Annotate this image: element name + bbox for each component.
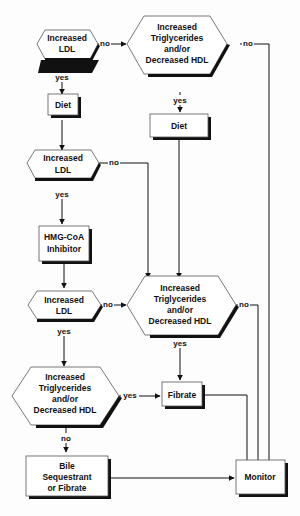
node-d5-line-4: Decreased HDL [149,316,212,326]
label-d6-yes: yes [123,391,137,400]
node-p3-hmg-coa-inhibitor: HMG-CoA Inhibitor [39,226,92,264]
edge-d3-d5 [98,163,148,278]
label-d6-no: no [61,434,71,443]
node-d1-increased-ldl: Increased LDL [37,30,100,73]
node-d6-line-3: and/or [52,394,79,404]
label-d2-no: no [243,39,253,48]
node-p3-line-2: Inhibitor [47,244,82,254]
label-d5-yes: yes [173,339,187,348]
node-d6-line-1: Increased [45,372,85,382]
node-p6-monitor: Monitor [236,460,288,497]
node-d1-line-2: LDL [59,44,76,54]
node-d4-line-1: Increased [44,295,84,305]
node-d6-line-4: Decreased HDL [34,405,97,415]
node-d1-line-1: Increased [47,33,87,43]
node-p1-diet: Diet [48,94,81,118]
node-d5-increased-tg: Increased Triglycerides and/or Decreased… [127,276,239,338]
node-d4-increased-ldl: Increased LDL [28,291,103,322]
node-p4-fibrate: Fibrate [162,382,205,409]
label-d3-no: no [109,158,119,167]
label-d1-yes: yes [55,73,69,82]
node-p2-diet: Diet [150,114,211,140]
node-d2-line-4: Decreased HDL [146,55,209,65]
node-d2-line-2: Triglycerides [151,33,204,43]
node-d2-line-3: and/or [164,44,191,54]
node-d2-increased-tg: Increased Triglycerides and/or Decreased… [127,16,230,77]
node-d4-line-2: LDL [56,306,73,316]
node-d3-increased-ldl: Increased LDL [27,150,101,181]
node-d5-line-3: and/or [167,305,194,315]
label-d5-no: no [239,300,249,309]
node-p5-line-1: Bile [59,461,75,471]
node-d3-line-1: Increased [43,153,83,163]
label-d2-yes: yes [173,96,187,105]
node-p5-bile-sequestrant-or-fibrate: Bile Sequestrant or Fibrate [26,456,111,499]
node-d5-line-2: Triglycerides [154,294,207,304]
node-p5-line-3: or Fibrate [47,483,86,493]
node-d6-line-2: Triglycerides [39,383,92,393]
node-d6-increased-tg: Increased Triglycerides and/or Decreased… [12,367,122,428]
node-p4-label: Fibrate [168,390,197,400]
node-p2-label: Diet [171,121,187,131]
label-d3-yes: yes [55,190,69,199]
node-p3-line-1: HMG-CoA [44,232,84,242]
flowchart-canvas: no yes no yes no yes no yes no yes yes n… [0,0,300,516]
label-d4-no: no [103,300,113,309]
label-d4-yes: yes [57,327,71,336]
label-d1-no: no [100,39,110,48]
edge-d2-monitor [240,44,269,472]
node-p6-label: Monitor [244,472,276,482]
node-d5-line-1: Increased [160,283,200,293]
node-d2-line-1: Increased [157,22,197,32]
node-p5-line-2: Sequestrant [42,472,91,482]
node-p1-label: Diet [55,100,71,110]
node-d3-line-2: LDL [55,165,72,175]
